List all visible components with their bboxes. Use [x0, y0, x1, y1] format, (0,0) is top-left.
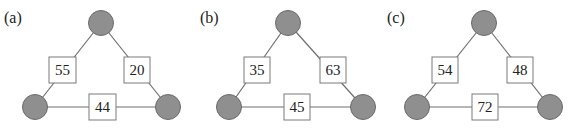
node-bottom-left: [405, 95, 430, 120]
triangle-diagrams: (a) 55 20 44 (b) 35 63 45 (c): [0, 0, 571, 128]
panel-b: (b) 35 63 45: [200, 9, 376, 120]
panel-label: (c): [387, 9, 405, 27]
node-top: [89, 11, 114, 36]
node-top: [276, 11, 301, 36]
edge-value-bottom: 45: [290, 99, 305, 115]
edge-value-right: 63: [326, 62, 341, 78]
edge-value-right: 20: [130, 62, 145, 78]
edge-value-left: 55: [55, 62, 70, 78]
node-top: [472, 11, 497, 36]
node-bottom-right: [156, 95, 181, 120]
edge-value-bottom: 44: [95, 99, 111, 115]
node-bottom-right: [538, 95, 563, 120]
panel-label: (b): [200, 9, 219, 27]
node-bottom-right: [351, 95, 376, 120]
edge-value-right: 48: [513, 62, 528, 78]
edge-value-left: 54: [438, 62, 454, 78]
panel-label: (a): [4, 9, 22, 27]
edge-value-left: 35: [250, 62, 265, 78]
panel-c: (c) 54 48 72: [387, 9, 563, 120]
edge-value-bottom: 72: [478, 99, 493, 115]
node-bottom-left: [217, 95, 242, 120]
node-bottom-left: [23, 95, 48, 120]
panel-a: (a) 55 20 44: [4, 9, 181, 120]
